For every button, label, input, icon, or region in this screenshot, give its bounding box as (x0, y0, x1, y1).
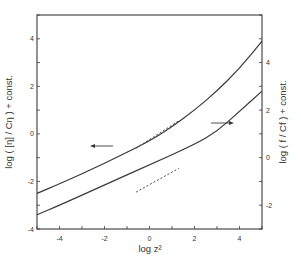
y-axis-left-label: log ( [η] / Cη ) + const. (3, 75, 14, 169)
x-tick-label: -4 (56, 235, 62, 242)
y-right-tick-label: 2 (266, 107, 270, 114)
x-tick-label: 4 (238, 235, 242, 242)
y-left-tick-label: 0 (30, 130, 34, 137)
y-left-tick-label: 4 (30, 35, 34, 42)
x-tick-label: 2 (193, 235, 197, 242)
asymptote-dashed-2 (136, 168, 179, 192)
curve-2 (37, 91, 262, 215)
y-right-tick-label: -2 (266, 202, 272, 209)
axis-ticks: -4-2024-4-2024-2024 (28, 15, 273, 242)
chart: -4-2024-4-2024-2024 log z² log ( [η] / C… (0, 0, 301, 272)
y-axis-right-label: log ( f / Cf ) + const. (277, 80, 288, 163)
x-tick-label: -2 (101, 235, 107, 242)
asymptote-dashes (136, 121, 179, 192)
y-left-tick-label: 2 (30, 83, 34, 90)
x-tick-label: 0 (148, 235, 152, 242)
x-axis-label: log z² (138, 243, 161, 254)
y-right-tick-label: 4 (266, 59, 270, 66)
curve-1 (37, 41, 262, 193)
asymptote-dashed-1 (136, 121, 179, 148)
y-left-tick-label: -2 (28, 178, 34, 185)
y-left-tick-label: -4 (28, 226, 34, 233)
data-curves (37, 41, 262, 215)
y-right-tick-label: 0 (266, 154, 270, 161)
